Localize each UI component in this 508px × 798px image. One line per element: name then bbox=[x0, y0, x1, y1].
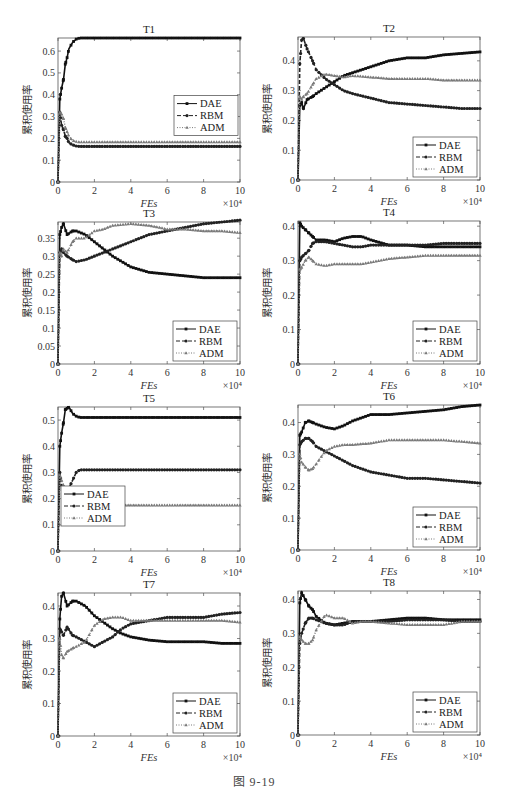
x-tick-label: 0 bbox=[296, 183, 301, 194]
y-tick-label: 0.3 bbox=[43, 111, 56, 122]
legend-label: RBM bbox=[439, 707, 463, 718]
legend-label: ADM bbox=[439, 719, 464, 730]
y-tick-label: 0.1 bbox=[283, 696, 296, 707]
x-multiplier: ×10⁴ bbox=[463, 196, 483, 207]
x-tick-label: 8 bbox=[201, 739, 206, 750]
legend: DAERBMADM bbox=[174, 96, 238, 136]
y-tick-label: 0.4 bbox=[43, 89, 56, 100]
legend: DAERBMADM bbox=[413, 507, 477, 547]
x-multiplier: ×10⁴ bbox=[463, 566, 483, 577]
x-axis-label: FEs bbox=[140, 567, 158, 578]
y-tick-label: 0.1 bbox=[283, 145, 296, 156]
x-multiplier: ×10⁴ bbox=[223, 380, 243, 391]
y-tick-label: 0.15 bbox=[38, 305, 56, 316]
x-tick-label: 2 bbox=[332, 553, 337, 564]
y-axis-label: 累积使用率 bbox=[261, 453, 273, 503]
subplot-title: T1 bbox=[143, 23, 155, 35]
x-tick-label: 4 bbox=[128, 367, 133, 378]
y-tick-label: 0.2 bbox=[283, 115, 296, 126]
y-tick-label: 0 bbox=[290, 175, 295, 186]
x-tick-label: 6 bbox=[405, 367, 410, 378]
x-axis-label: FEs bbox=[140, 380, 158, 391]
x-tick-label: 8 bbox=[441, 738, 446, 749]
subplot-title: T6 bbox=[383, 390, 396, 402]
subplot-t3: T300.050.10.150.20.250.30.350246810FEs×1… bbox=[21, 207, 245, 391]
legend-label: RBM bbox=[87, 501, 111, 512]
subplot-t1: T100.10.20.30.40.50.60246810FEs×10⁴累积使用率… bbox=[21, 23, 245, 209]
legend-label: ADM bbox=[439, 534, 464, 545]
x-tick-label: 0 bbox=[296, 738, 301, 749]
legend-label: ADM bbox=[200, 122, 225, 133]
x-tick-label: 10 bbox=[475, 738, 485, 749]
x-tick-label: 0 bbox=[56, 367, 61, 378]
x-tick-label: 4 bbox=[128, 185, 133, 196]
x-tick-label: 4 bbox=[128, 554, 133, 565]
subplot-t5: T500.10.20.30.40.50246810FEs×10⁴累积使用率DAE… bbox=[21, 392, 245, 578]
subplot-t6: T600.10.20.30.40246810FEs×10⁴累积使用率DAERBM… bbox=[261, 390, 485, 577]
x-tick-label: 4 bbox=[368, 367, 373, 378]
y-tick-label: 0.1 bbox=[43, 698, 56, 709]
y-tick-label: 0.5 bbox=[43, 67, 56, 78]
x-tick-label: 2 bbox=[92, 185, 97, 196]
x-tick-label: 4 bbox=[368, 553, 373, 564]
y-tick-label: 0.4 bbox=[43, 441, 56, 452]
legend-label: DAE bbox=[439, 695, 461, 706]
x-multiplier: ×10⁴ bbox=[223, 198, 243, 209]
legend-label: DAE bbox=[199, 696, 221, 707]
x-tick-label: 8 bbox=[201, 367, 206, 378]
y-tick-label: 0 bbox=[50, 359, 55, 370]
x-multiplier: ×10⁴ bbox=[223, 752, 243, 763]
y-tick-label: 0.2 bbox=[283, 662, 296, 673]
legend-label: RBM bbox=[439, 152, 463, 163]
y-tick-label: 0.1 bbox=[283, 324, 296, 335]
x-tick-label: 6 bbox=[165, 185, 170, 196]
y-axis-label: 累积使用率 bbox=[21, 454, 33, 504]
x-tick-label: 0 bbox=[296, 553, 301, 564]
y-tick-label: 0.2 bbox=[43, 133, 56, 144]
axes-box bbox=[58, 407, 240, 551]
y-tick-label: 0.2 bbox=[43, 287, 56, 298]
legend-label: ADM bbox=[439, 348, 464, 359]
legend-label: RBM bbox=[199, 336, 223, 347]
legend-label: DAE bbox=[439, 140, 461, 151]
x-tick-label: 4 bbox=[128, 739, 133, 750]
figure: T100.10.20.30.40.50.60246810FEs×10⁴累积使用率… bbox=[0, 0, 508, 798]
x-tick-label: 10 bbox=[475, 367, 485, 378]
x-axis-label: FEs bbox=[380, 751, 398, 762]
y-axis-label: 累积使用率 bbox=[261, 268, 273, 318]
x-tick-label: 2 bbox=[332, 738, 337, 749]
x-tick-label: 10 bbox=[235, 554, 245, 565]
x-tick-label: 10 bbox=[235, 739, 245, 750]
y-axis-label: 累积使用率 bbox=[261, 84, 273, 134]
x-tick-label: 10 bbox=[235, 185, 245, 196]
legend: DAERBMADM bbox=[413, 321, 477, 361]
x-tick-label: 6 bbox=[165, 554, 170, 565]
legend-label: DAE bbox=[439, 324, 461, 335]
y-tick-label: 0.1 bbox=[43, 519, 56, 530]
y-tick-label: 0.3 bbox=[283, 449, 296, 460]
x-multiplier: ×10⁴ bbox=[463, 380, 483, 391]
subplot-title: T8 bbox=[383, 576, 396, 588]
x-tick-label: 8 bbox=[201, 554, 206, 565]
y-tick-label: 0 bbox=[290, 359, 295, 370]
x-tick-label: 0 bbox=[56, 739, 61, 750]
x-tick-label: 6 bbox=[405, 738, 410, 749]
legend-label: ADM bbox=[439, 164, 464, 175]
legend: DAERBMADM bbox=[173, 693, 237, 733]
x-tick-label: 2 bbox=[332, 183, 337, 194]
subplot-title: T3 bbox=[143, 207, 156, 219]
x-tick-label: 0 bbox=[56, 185, 61, 196]
subplot-t2: T200.10.20.30.40246810FEs×10⁴累积使用率DAERBM… bbox=[261, 22, 485, 207]
y-tick-label: 0.3 bbox=[283, 85, 296, 96]
y-tick-label: 0.1 bbox=[43, 155, 56, 166]
legend-label: DAE bbox=[87, 489, 109, 500]
y-tick-label: 0.5 bbox=[43, 415, 56, 426]
subplot-t8: T800.10.20.30.40246810FEs×10⁴累积使用率DAERBM… bbox=[261, 576, 485, 762]
y-tick-label: 0.1 bbox=[43, 323, 56, 334]
y-tick-label: 0.4 bbox=[43, 601, 56, 612]
y-tick-label: 0 bbox=[50, 731, 55, 742]
y-tick-label: 0.05 bbox=[38, 341, 56, 352]
y-tick-label: 0.25 bbox=[38, 269, 56, 280]
y-tick-label: 0.4 bbox=[283, 221, 296, 232]
x-tick-label: 6 bbox=[405, 553, 410, 564]
